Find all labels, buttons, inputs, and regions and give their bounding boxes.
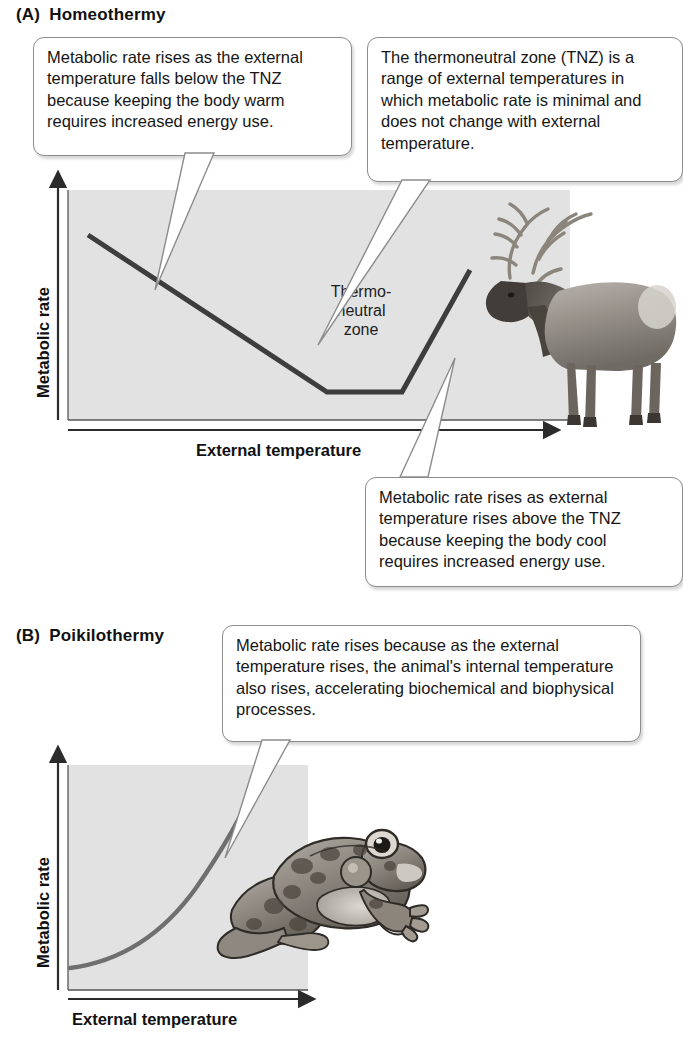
callout-poikilotherm-explanation-text: Metabolic rate rises because as the exte…: [236, 635, 628, 721]
x-axis-label-b: External temperature: [72, 1010, 237, 1029]
y-axis-label-b: Metabolic rate: [34, 857, 53, 968]
frog-illustration: [214, 800, 430, 985]
callout-poikilotherm-explanation: Metabolic rate rises because as the exte…: [222, 625, 641, 742]
